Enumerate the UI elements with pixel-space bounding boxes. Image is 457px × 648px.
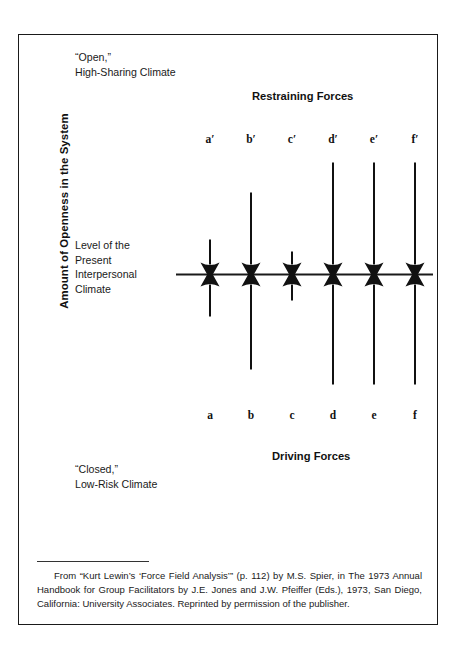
force-arrow <box>406 163 425 280</box>
source-footnote: From “Kurt Lewin’s ‘Force Field Analysis… <box>37 569 422 611</box>
driving-arrow-label-d: d <box>322 409 344 421</box>
arrow-head <box>242 263 261 280</box>
restraining-arrow-label-b′: b′ <box>240 133 262 145</box>
restraining-arrow-label-e′: e′ <box>363 133 385 145</box>
open-climate-note: “Open,” High-Sharing Climate <box>75 50 176 79</box>
restraining-arrow-label-a′: a′ <box>199 133 221 145</box>
restraining-arrow-label-d′: d′ <box>322 133 344 145</box>
driving-arrow-label-a: a <box>199 409 221 421</box>
driving-arrow-label-e: e <box>363 409 385 421</box>
restraining-arrow-label-c′: c′ <box>281 133 303 145</box>
force-arrow <box>283 270 302 301</box>
arrow-head <box>201 270 220 287</box>
y-axis-label: Amount of Openness in the System <box>58 104 70 319</box>
force-arrows-svg <box>19 35 439 626</box>
force-arrow <box>242 193 261 280</box>
restraining-forces-heading: Restraining Forces <box>252 90 353 102</box>
force-arrow <box>201 240 220 280</box>
driving-force-arrows <box>201 270 425 385</box>
driving-arrow-label-b: b <box>240 409 262 421</box>
arrow-head <box>324 263 343 280</box>
force-arrow <box>201 270 220 317</box>
arrow-head <box>283 270 302 287</box>
force-arrow <box>365 270 384 385</box>
arrow-head <box>242 270 261 287</box>
arrow-head <box>201 263 220 280</box>
driving-forces-heading: Driving Forces <box>272 450 350 462</box>
driving-arrow-label-f: f <box>404 409 426 421</box>
arrow-head <box>283 263 302 280</box>
driving-arrow-label-c: c <box>281 409 303 421</box>
arrow-head <box>365 263 384 280</box>
restraining-arrow-label-f′: f′ <box>404 133 426 145</box>
force-arrow <box>365 163 384 280</box>
force-arrow <box>324 270 343 385</box>
restraining-force-arrows <box>201 163 425 280</box>
force-arrow <box>283 252 302 280</box>
force-arrow <box>242 270 261 370</box>
closed-climate-note: “Closed,” Low-Risk Climate <box>75 462 157 491</box>
force-arrow <box>406 270 425 385</box>
figure-frame: Amount of Openness in the System “Open,”… <box>18 34 438 625</box>
force-arrow <box>324 163 343 280</box>
arrow-head <box>406 263 425 280</box>
footnote-separator <box>37 561 149 562</box>
arrow-head <box>365 270 384 287</box>
arrow-head <box>406 270 425 287</box>
present-climate-note: Level of the Present Interpersonal Clima… <box>75 238 137 296</box>
arrow-head <box>324 270 343 287</box>
force-field-plot <box>19 35 439 626</box>
